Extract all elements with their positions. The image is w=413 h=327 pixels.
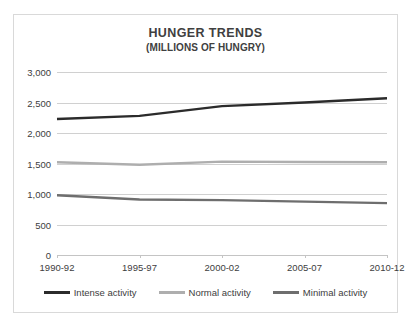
y-axis-tick-label: 1,000 — [27, 189, 51, 200]
series-lines — [57, 72, 387, 255]
legend-line-icon — [44, 291, 70, 294]
chart-subtitle: (MILLIONS OF HUNGRY) — [14, 41, 397, 55]
chart-title-block: HUNGER TRENDS (MILLIONS OF HUNGRY) — [14, 25, 397, 55]
y-axis-tick-label: 1,500 — [27, 158, 51, 169]
series-line — [57, 98, 387, 119]
x-axis-tick-mark — [140, 255, 141, 258]
series-line — [57, 195, 387, 203]
y-axis-tick-label: 0 — [46, 250, 51, 261]
legend-line-icon — [159, 291, 185, 294]
series-line — [57, 162, 387, 165]
x-axis-tick-label: 1990-92 — [40, 262, 75, 273]
plot-area: 05001,0001,5002,0002,5003,000 1990-92199… — [57, 72, 387, 255]
y-axis-tick-label: 3,000 — [27, 67, 51, 78]
x-axis-tick-label: 2005-07 — [287, 262, 322, 273]
y-axis-tick-label: 2,000 — [27, 128, 51, 139]
x-axis-tick-mark — [57, 255, 58, 258]
legend-item[interactable]: Normal activity — [159, 287, 251, 298]
x-axis-tick-mark — [222, 255, 223, 258]
chart-container: HUNGER TRENDS (MILLIONS OF HUNGRY) 05001… — [13, 14, 398, 313]
x-axis-tick-label: 2010-12 — [370, 262, 405, 273]
legend-item-label: Minimal activity — [303, 287, 367, 298]
x-axis-tick-mark — [387, 255, 388, 258]
legend-line-icon — [273, 291, 299, 294]
y-axis-tick-label: 2,500 — [27, 97, 51, 108]
legend-item[interactable]: Minimal activity — [273, 287, 367, 298]
legend-item-label: Intense activity — [74, 287, 137, 298]
legend-item[interactable]: Intense activity — [44, 287, 137, 298]
page-title: HUNGER TRENDS — [14, 25, 397, 41]
legend-item-label: Normal activity — [189, 287, 251, 298]
x-axis-tick-label: 1995-97 — [122, 262, 157, 273]
y-axis-tick-label: 500 — [35, 219, 51, 230]
chart-legend: Intense activityNormal activityMinimal a… — [14, 287, 397, 298]
x-axis-tick-mark — [305, 255, 306, 258]
x-axis-tick-label: 2000-02 — [205, 262, 240, 273]
